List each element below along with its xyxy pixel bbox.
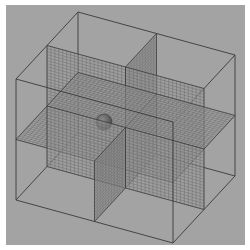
- cube-diagram: [0, 0, 250, 250]
- mesh-planes: [16, 34, 235, 222]
